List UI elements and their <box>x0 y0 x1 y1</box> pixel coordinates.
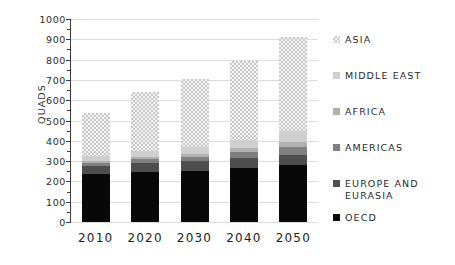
y-axis-tick-labels: 01002003004005006007008009001000 <box>30 14 66 224</box>
bar-segment-europe[interactable] <box>230 158 258 168</box>
bar-segment-oecd[interactable] <box>131 172 159 222</box>
plot-area <box>71 19 318 222</box>
y-tick-label: 800 <box>46 54 66 65</box>
bar-segment-oecd[interactable] <box>181 171 209 222</box>
y-tick-label: 0 <box>59 217 66 228</box>
y-tick-label: 900 <box>46 34 66 45</box>
bar-2020[interactable] <box>131 92 159 222</box>
bar-segment-amer[interactable] <box>181 157 209 161</box>
bar-segment-oecd[interactable] <box>279 165 307 222</box>
gridline <box>71 222 318 223</box>
y-tick-label: 300 <box>46 156 66 167</box>
bar-segment-europe[interactable] <box>279 155 307 165</box>
y-tick-label: 600 <box>46 95 66 106</box>
legend-label: OECD <box>345 212 377 224</box>
bar-segment-asia[interactable] <box>181 79 209 147</box>
legend-swatch-icon <box>333 214 340 221</box>
y-axis-major-tick <box>66 100 71 101</box>
bar-segment-asia[interactable] <box>230 61 258 140</box>
y-axis-major-tick <box>66 141 71 142</box>
bar-segment-amer[interactable] <box>230 152 258 157</box>
legend-item-europe[interactable]: Europe and Eurasia <box>333 178 453 201</box>
x-tick-label-2030: 2030 <box>177 231 212 245</box>
gridline <box>71 19 318 20</box>
legend-item-africa[interactable]: Africa <box>333 106 453 118</box>
legend-swatch-icon <box>333 36 340 43</box>
y-axis-major-tick <box>66 121 71 122</box>
y-tick-label: 1000 <box>39 14 66 25</box>
y-tick-label: 200 <box>46 176 66 187</box>
y-axis-minor-tick <box>67 192 71 193</box>
bar-segment-oecd[interactable] <box>230 168 258 222</box>
legend-label: Americas <box>345 142 403 154</box>
y-axis-minor-tick <box>67 90 71 91</box>
legend-label: Middle East <box>345 70 421 82</box>
bar-segment-amer[interactable] <box>279 147 307 154</box>
bar-segment-me[interactable] <box>230 140 258 148</box>
bar-segment-africa[interactable] <box>181 154 209 157</box>
bar-segment-africa[interactable] <box>230 148 258 152</box>
x-tick-label-2050: 2050 <box>276 231 311 245</box>
legend-swatch-icon <box>333 108 340 115</box>
legend-label: Europe and Eurasia <box>345 178 453 201</box>
y-tick-label: 500 <box>46 115 66 126</box>
legend-item-me[interactable]: Middle East <box>333 70 453 82</box>
bar-2010[interactable] <box>82 113 110 222</box>
legend-item-asia[interactable]: Asia <box>333 34 453 46</box>
y-axis-major-tick <box>66 202 71 203</box>
y-axis-minor-tick <box>67 29 71 30</box>
bar-segment-asia[interactable] <box>279 37 307 131</box>
y-axis-minor-tick <box>67 110 71 111</box>
legend-item-oecd[interactable]: OECD <box>333 212 453 224</box>
bar-segment-europe[interactable] <box>131 163 159 172</box>
stacked-bar-chart: Quads 01002003004005006007008009001000 2… <box>0 0 455 265</box>
y-axis-major-tick <box>66 222 71 223</box>
y-axis-minor-tick <box>67 70 71 71</box>
y-axis-minor-tick <box>67 49 71 50</box>
legend-label: Africa <box>345 106 386 118</box>
bar-segment-me[interactable] <box>279 131 307 142</box>
bar-segment-asia[interactable] <box>131 92 159 151</box>
y-axis-major-tick <box>66 19 71 20</box>
bar-segment-amer[interactable] <box>131 159 159 163</box>
y-tick-label: 400 <box>46 135 66 146</box>
legend-swatch-icon <box>333 180 340 187</box>
y-axis-major-tick <box>66 39 71 40</box>
bar-segment-africa[interactable] <box>131 157 159 159</box>
y-axis-major-tick <box>66 181 71 182</box>
bar-2030[interactable] <box>181 79 209 222</box>
y-axis-major-tick <box>66 161 71 162</box>
y-axis-minor-tick <box>67 212 71 213</box>
bar-segment-africa[interactable] <box>82 161 110 163</box>
bar-segment-europe[interactable] <box>82 166 110 174</box>
legend-label: Asia <box>345 34 371 46</box>
bar-segment-me[interactable] <box>181 147 209 153</box>
legend-swatch-icon <box>333 144 340 151</box>
y-tick-label: 100 <box>46 196 66 207</box>
bar-segment-amer[interactable] <box>82 163 110 166</box>
y-axis-minor-tick <box>67 131 71 132</box>
bar-segment-europe[interactable] <box>181 161 209 171</box>
x-tick-label-2010: 2010 <box>78 231 113 245</box>
y-axis-minor-tick <box>67 171 71 172</box>
x-tick-label-2040: 2040 <box>226 231 261 245</box>
bar-segment-me[interactable] <box>131 151 159 156</box>
y-axis-minor-tick <box>67 151 71 152</box>
x-axis-tick-labels: 20102020203020402050 <box>71 231 318 251</box>
legend-swatch-icon <box>333 72 340 79</box>
y-tick-label: 700 <box>46 74 66 85</box>
legend-item-amer[interactable]: Americas <box>333 142 453 154</box>
bar-segment-oecd[interactable] <box>82 174 110 222</box>
bar-segment-me[interactable] <box>82 156 110 160</box>
bar-segment-africa[interactable] <box>279 142 307 147</box>
y-axis-major-tick <box>66 80 71 81</box>
bar-2050[interactable] <box>279 37 307 222</box>
bar-segment-asia[interactable] <box>82 113 110 156</box>
y-axis-major-tick <box>66 60 71 61</box>
bar-2040[interactable] <box>230 61 258 222</box>
x-tick-label-2020: 2020 <box>127 231 162 245</box>
